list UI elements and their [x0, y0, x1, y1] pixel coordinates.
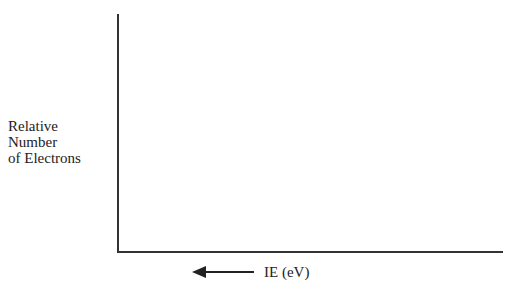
x-axis — [117, 251, 503, 253]
x-axis-label: IE (eV) — [264, 264, 309, 281]
y-axis-label-line-1: Relative — [8, 118, 81, 134]
left-arrow-icon — [192, 262, 254, 282]
x-axis-label-group: IE (eV) — [192, 262, 309, 282]
y-axis — [117, 14, 119, 253]
y-axis-label-line-3: of Electrons — [8, 150, 81, 166]
y-axis-label-line-2: Number — [8, 134, 81, 150]
y-axis-label: Relative Number of Electrons — [8, 118, 81, 166]
